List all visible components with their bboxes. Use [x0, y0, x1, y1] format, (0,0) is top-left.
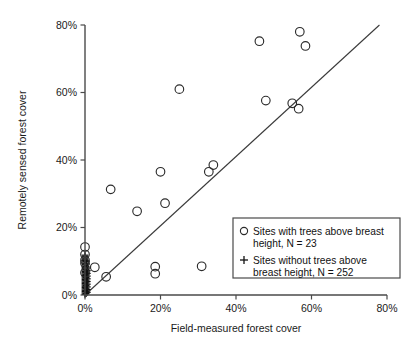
plot-canvas: 0%20%40%60%80%0%20%40%60%80% Field-measu…	[0, 0, 417, 342]
data-point-circle	[197, 262, 206, 271]
y-tick-label: 40%	[56, 154, 77, 166]
data-point-circle	[106, 185, 115, 194]
x-tick-label: 20%	[150, 302, 171, 314]
axis-titles-group: Field-measured forest coverRemotely sens…	[16, 90, 302, 334]
y-tick-label: 80%	[56, 19, 77, 31]
data-point-circle	[255, 37, 264, 46]
legend-entry-2-line-2: breast height, N = 252	[253, 267, 354, 278]
data-point-circle	[209, 161, 218, 170]
data-point-circle	[262, 96, 271, 105]
data-point-circle	[102, 272, 111, 281]
x-axis-title: Field-measured forest cover	[171, 322, 302, 334]
y-tick-label: 60%	[56, 86, 77, 98]
legend-entry-2-line-1: Sites without trees above	[253, 255, 367, 266]
data-point-circle	[161, 199, 170, 208]
y-tick-label: 20%	[56, 221, 77, 233]
data-point-circle	[156, 168, 165, 177]
legend-entry-1-line-2: height, N = 23	[253, 238, 317, 249]
data-point-circle	[301, 42, 310, 51]
legend-entry-1-line-1: Sites with trees above breast	[253, 226, 384, 237]
data-point-circle	[296, 27, 305, 36]
y-axis-title: Remotely sensed forest cover	[16, 90, 28, 229]
scatter-plot-figure: 0%20%40%60%80%0%20%40%60%80% Field-measu…	[0, 0, 417, 342]
legend-group: Sites with trees above breastheight, N =…	[233, 218, 400, 278]
data-point-circle	[294, 104, 303, 113]
data-point-circle	[91, 263, 100, 272]
x-tick-label: 0%	[77, 302, 92, 314]
y-tick-label: 0%	[62, 289, 77, 301]
x-tick-label: 60%	[301, 302, 322, 314]
data-point-circle	[175, 85, 184, 94]
x-tick-label: 80%	[376, 302, 397, 314]
data-point-circle	[133, 207, 142, 216]
x-tick-label: 40%	[225, 302, 246, 314]
